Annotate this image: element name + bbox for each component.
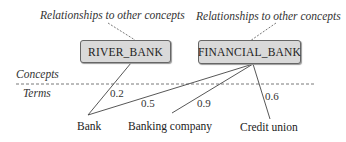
terms-layer-label: Terms: [23, 87, 51, 99]
concepts-layer-label: Concepts: [16, 68, 59, 80]
right-relationship-pointer: [250, 23, 276, 41]
edge-weight-bank-financial-bank: 0.5: [141, 97, 155, 109]
term-bank: Bank: [77, 120, 101, 132]
left-relationship-label: Relationships to other concepts: [40, 9, 185, 21]
concept-river-bank: RIVER_BANK: [80, 40, 171, 63]
right-relationship-label: Relationships to other concepts: [196, 10, 341, 22]
term-credit-union: Credit union: [240, 121, 298, 133]
term-banking-company: Banking company: [128, 120, 212, 132]
edge-weight-bank-river-bank: 0.2: [110, 87, 124, 99]
edge-weight-banking-company-financial-bank: 0.9: [197, 97, 211, 109]
concept-financial-bank-label: FINANCIAL_BANK: [198, 46, 301, 58]
edge-weight-credit-union-financial-bank: 0.6: [265, 90, 279, 102]
concept-river-bank-label: RIVER_BANK: [88, 46, 163, 58]
concept-financial-bank: FINANCIAL_BANK: [198, 40, 301, 64]
left-relationship-pointer: [108, 23, 135, 40]
edge-banking-company-financial-bank: [172, 64, 253, 113]
